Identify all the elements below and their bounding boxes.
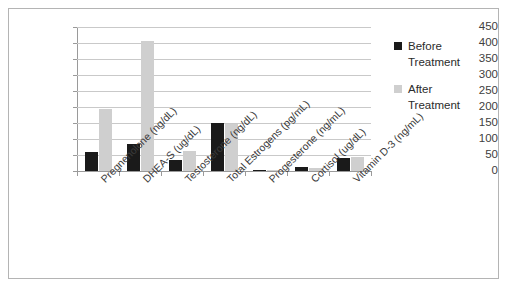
bar-group bbox=[77, 27, 119, 171]
legend-item-before: BeforeTreatment bbox=[394, 39, 494, 70]
x-tick-mark bbox=[77, 171, 78, 176]
chart-legend: BeforeTreatment AfterTreatment bbox=[394, 39, 494, 125]
chart-canvas: 450400350300250200150100500 Pregnenolone… bbox=[9, 9, 498, 278]
after-swatch-icon bbox=[394, 85, 402, 93]
chart-frame: 450400350300250200150100500 Pregnenolone… bbox=[8, 8, 499, 279]
legend-label-after: AfterTreatment bbox=[408, 82, 460, 113]
y-tick-label: 50 bbox=[438, 149, 498, 161]
bar-before bbox=[295, 167, 308, 171]
legend-item-after: AfterTreatment bbox=[394, 82, 494, 113]
bar-after bbox=[99, 109, 112, 171]
y-tick-label: 100 bbox=[438, 133, 498, 145]
y-tick-label: 450 bbox=[438, 21, 498, 33]
bar-before bbox=[253, 170, 266, 171]
bar-after bbox=[141, 41, 154, 171]
before-swatch-icon bbox=[394, 42, 402, 50]
legend-label-before: BeforeTreatment bbox=[408, 39, 460, 70]
y-tick-label: 0 bbox=[438, 165, 498, 177]
bar-before bbox=[85, 152, 98, 171]
